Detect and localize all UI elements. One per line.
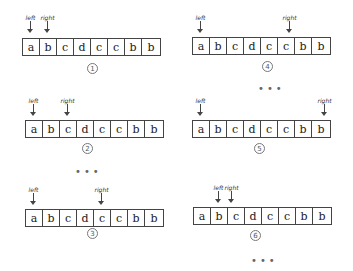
array-cell: b — [145, 210, 163, 226]
array-cell: a — [193, 38, 210, 54]
right-pointer: right — [223, 184, 240, 201]
array-cell: b — [312, 38, 330, 54]
array-cell: c — [111, 210, 128, 226]
string-array: a b c d c c b b — [25, 120, 164, 138]
right-pointer: right — [59, 97, 76, 114]
array-cell: c — [94, 210, 111, 226]
array-cell: c — [278, 38, 295, 54]
array-cell: d — [244, 38, 261, 54]
right-pointer: right — [93, 186, 110, 203]
right-label: right — [40, 14, 54, 21]
array-cell: c — [278, 121, 295, 137]
array-cell: c — [227, 38, 244, 54]
array-cell: b — [210, 121, 227, 137]
down-arrow-icon — [289, 21, 290, 31]
step-number: 1 — [87, 63, 98, 74]
array-cell: d — [244, 121, 261, 137]
down-arrow-icon — [47, 21, 48, 31]
step-number: 2 — [82, 143, 93, 154]
left-label: left — [29, 97, 39, 104]
array-cell: c — [57, 39, 74, 55]
step-number: 5 — [254, 143, 265, 154]
array-cell: d — [77, 210, 94, 226]
string-array: a b c d c c b b — [192, 120, 331, 138]
down-arrow-icon — [231, 191, 232, 201]
array-cell: b — [128, 210, 145, 226]
down-arrow-icon — [67, 104, 68, 114]
array-cell: b — [312, 121, 330, 137]
down-arrow-icon — [33, 193, 34, 203]
array-cell: a — [26, 210, 43, 226]
array-cell: b — [142, 39, 160, 55]
array-cell: b — [211, 208, 228, 224]
right-pointer: right — [39, 14, 56, 31]
array-cell: b — [128, 121, 145, 137]
array-cell: c — [60, 121, 77, 137]
string-array: a b c d c c b b — [25, 209, 164, 227]
right-label: right — [224, 184, 238, 191]
down-arrow-icon — [33, 104, 34, 114]
down-arrow-icon — [101, 193, 102, 203]
array-cell: b — [145, 121, 163, 137]
array-cell: a — [26, 121, 43, 137]
array-cell: d — [245, 208, 262, 224]
array-cell: d — [77, 121, 94, 137]
string-array: a b c d c c b b — [193, 207, 332, 225]
right-label: right — [282, 14, 296, 21]
array-cell: c — [262, 208, 279, 224]
array-cell: c — [227, 121, 244, 137]
array-cell: c — [94, 121, 111, 137]
array-cell: a — [23, 39, 40, 55]
left-label: left — [196, 97, 206, 104]
down-arrow-icon — [30, 21, 31, 31]
array-cell: b — [125, 39, 142, 55]
right-label: right — [60, 97, 74, 104]
left-label: left — [26, 14, 36, 21]
array-cell: b — [296, 208, 313, 224]
array-cell: c — [111, 121, 128, 137]
array-cell: c — [60, 210, 77, 226]
step-number: 6 — [250, 230, 261, 241]
down-arrow-icon — [324, 104, 325, 114]
ellipsis: ••• — [75, 166, 102, 177]
ellipsis: ••• — [251, 255, 278, 266]
array-cell: b — [40, 39, 57, 55]
down-arrow-icon — [200, 104, 201, 114]
left-label: left — [214, 184, 224, 191]
left-label: left — [196, 14, 206, 21]
array-cell: b — [210, 38, 227, 54]
left-pointer: left — [192, 97, 209, 114]
step-number: 3 — [87, 228, 98, 239]
down-arrow-icon — [200, 21, 201, 31]
array-cell: c — [108, 39, 125, 55]
left-pointer: left — [25, 97, 42, 114]
array-cell: b — [313, 208, 331, 224]
string-array: a b c d c c b b — [22, 38, 161, 56]
ellipsis: ••• — [258, 83, 285, 94]
right-label: right — [94, 186, 108, 193]
left-pointer: left — [192, 14, 209, 31]
array-cell: b — [43, 210, 60, 226]
right-pointer: right — [281, 14, 298, 31]
right-label: right — [317, 97, 331, 104]
array-cell: b — [295, 121, 312, 137]
array-cell: b — [295, 38, 312, 54]
array-cell: c — [261, 38, 278, 54]
array-cell: c — [279, 208, 296, 224]
right-pointer: right — [316, 97, 333, 114]
left-pointer: left — [25, 186, 42, 203]
step-number: 4 — [262, 61, 273, 72]
array-cell: a — [193, 121, 210, 137]
string-array: a b c d c c b b — [192, 37, 331, 55]
array-cell: a — [194, 208, 211, 224]
array-cell: c — [91, 39, 108, 55]
array-cell: c — [261, 121, 278, 137]
array-cell: c — [228, 208, 245, 224]
left-label: left — [29, 186, 39, 193]
left-pointer: left — [22, 14, 39, 31]
down-arrow-icon — [218, 191, 219, 201]
array-cell: d — [74, 39, 91, 55]
array-cell: b — [43, 121, 60, 137]
